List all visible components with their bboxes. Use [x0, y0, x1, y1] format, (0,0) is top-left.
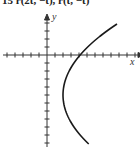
graph: x y	[0, 0, 140, 153]
y-axis-label: y	[51, 11, 57, 22]
axes	[3, 14, 140, 147]
parabola-curve	[63, 24, 117, 144]
x-axis-label: x	[129, 56, 135, 67]
